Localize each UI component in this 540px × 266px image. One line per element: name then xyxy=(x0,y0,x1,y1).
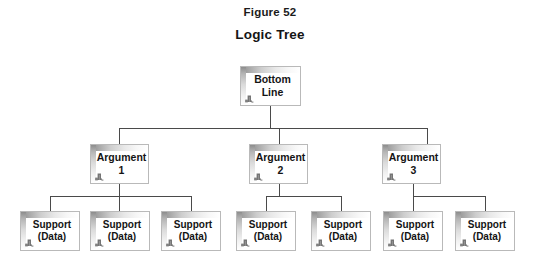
node-bottom-line-label: Bottom Line xyxy=(250,73,291,99)
connector-level1-bus xyxy=(119,128,427,129)
node-support-7-label: Support (Data) xyxy=(464,219,506,243)
connector-level1-drop-1 xyxy=(119,128,120,144)
node-argument-2[interactable]: Argument 2 xyxy=(249,144,308,184)
connector-arg1-drop-3 xyxy=(191,196,192,211)
connector-arg2-bus xyxy=(266,196,341,197)
connector-arg3-drop-1 xyxy=(413,196,414,211)
connector-arg1-stem xyxy=(119,184,120,196)
node-support-1[interactable]: Support (Data) xyxy=(20,211,80,251)
node-argument-1-label: Argument 1 xyxy=(93,151,147,177)
connector-arg2-drop-2 xyxy=(341,196,342,211)
figure-title: Logic Tree xyxy=(0,27,540,42)
node-support-3-label: Support (Data) xyxy=(170,219,212,243)
connector-arg2-drop-1 xyxy=(266,196,267,211)
node-support-2[interactable]: Support (Data) xyxy=(90,211,150,251)
connector-arg3-bus xyxy=(413,196,485,197)
node-support-6-label: Support (Data) xyxy=(392,219,434,243)
node-argument-2-label: Argument 2 xyxy=(252,151,306,177)
connector-arg2-stem xyxy=(279,184,280,196)
connector-arg3-stem xyxy=(413,184,414,196)
node-support-6[interactable]: Support (Data) xyxy=(383,211,443,251)
node-support-3[interactable]: Support (Data) xyxy=(161,211,221,251)
node-support-4-label: Support (Data) xyxy=(245,219,287,243)
node-support-5-label: Support (Data) xyxy=(320,219,362,243)
figure-number-label: Figure 52 xyxy=(0,6,540,18)
connector-level1-drop-3 xyxy=(427,128,428,144)
connector-arg1-drop-2 xyxy=(119,196,120,211)
node-support-5[interactable]: Support (Data) xyxy=(311,211,371,251)
connector-root-stem xyxy=(270,106,271,128)
node-support-7[interactable]: Support (Data) xyxy=(455,211,515,251)
connector-arg1-drop-1 xyxy=(50,196,51,211)
connector-arg3-drop-2 xyxy=(485,196,486,211)
node-support-2-label: Support (Data) xyxy=(99,219,141,243)
connector-arg1-bus xyxy=(50,196,191,197)
node-argument-3-label: Argument 3 xyxy=(385,151,439,177)
logic-tree-figure: Figure 52 Logic Tree Bottom LineArgument… xyxy=(0,0,540,266)
node-argument-3[interactable]: Argument 3 xyxy=(382,144,441,184)
connector-level1-drop-2 xyxy=(279,128,280,144)
node-bottom-line[interactable]: Bottom Line xyxy=(240,66,301,106)
node-argument-1[interactable]: Argument 1 xyxy=(90,144,149,184)
node-support-4[interactable]: Support (Data) xyxy=(236,211,296,251)
node-support-1-label: Support (Data) xyxy=(29,219,71,243)
